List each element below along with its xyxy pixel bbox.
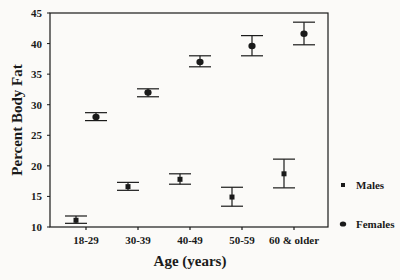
x-tick-label: 18-29 [73, 234, 99, 246]
square-marker-icon [341, 183, 345, 187]
square-marker [126, 184, 131, 189]
legend-item-males: Males [341, 179, 385, 191]
plot-frame [50, 13, 328, 227]
circle-marker [248, 43, 255, 49]
x-axis-title: Age (years) [154, 253, 227, 270]
y-tick-label: 20 [31, 160, 43, 172]
square-marker [178, 177, 183, 182]
series-females [85, 22, 315, 120]
legend-label: Females [356, 218, 395, 230]
data-point [169, 174, 191, 184]
y-tick-label: 45 [31, 7, 43, 19]
square-marker [74, 218, 79, 223]
y-tick-label: 35 [31, 68, 43, 80]
legend-label: Males [356, 179, 385, 191]
chart: 1015202530354045 18-2930-3940-4950-5960 … [0, 0, 400, 280]
x-axis: 18-2930-3940-4950-5960 & older [73, 227, 319, 246]
y-axis-title: Percent Body Fat [9, 64, 25, 175]
y-tick-label: 40 [31, 38, 43, 50]
x-tick-label: 30-39 [125, 234, 151, 246]
data-series [65, 22, 315, 223]
y-axis: 1015202530354045 [31, 7, 50, 233]
plot-border [50, 13, 328, 227]
data-point [241, 36, 263, 56]
series-males [65, 159, 295, 223]
circle-marker [300, 31, 307, 37]
x-tick-label: 40-49 [177, 234, 203, 246]
data-point [293, 22, 315, 45]
y-tick-label: 15 [31, 190, 43, 202]
y-tick-label: 30 [31, 99, 43, 111]
circle-marker [144, 89, 151, 95]
data-point [85, 113, 107, 121]
data-point [65, 216, 87, 223]
data-point [273, 159, 295, 188]
legend-item-females: Females [340, 218, 395, 230]
y-tick-label: 25 [31, 129, 43, 141]
legend: MalesFemales [340, 179, 395, 230]
data-point [221, 187, 243, 206]
circle-marker [196, 59, 203, 65]
circle-marker-icon [340, 221, 346, 226]
data-point [117, 182, 139, 190]
x-tick-label: 50-59 [229, 234, 255, 246]
circle-marker [92, 114, 99, 120]
data-point [189, 56, 211, 67]
data-point [137, 89, 159, 97]
x-tick-label: 60 & older [269, 234, 319, 246]
square-marker [282, 171, 287, 176]
square-marker [230, 195, 235, 200]
y-tick-label: 10 [31, 221, 43, 233]
